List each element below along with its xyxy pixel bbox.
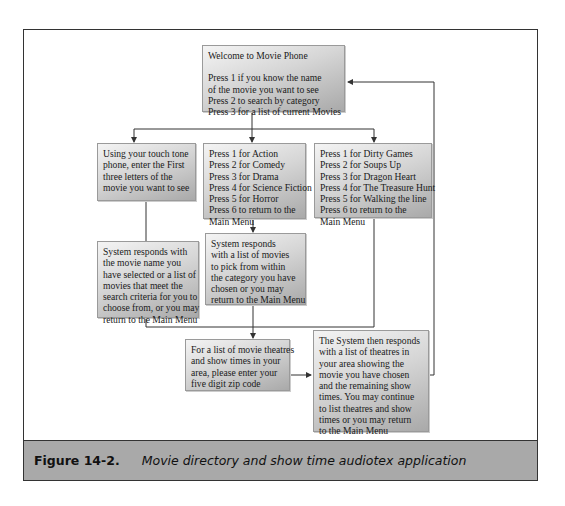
name-search-result-line: have selected or a list of [103,269,193,280]
theatre-result-box: The System then responds with a list of … [313,330,429,432]
category-result-line: with a list of movies [211,249,300,260]
category-menu-line: Press 5 for Horror [209,193,300,204]
category-menu-line: Press 6 to return to the [209,204,300,215]
category-menu-line: Press 1 for Action [209,148,300,159]
zip-prompt-line: area, please enter your [191,367,284,378]
current-movies-line: Press 1 for Dirty Games [320,148,426,159]
category-result-line: to pick from within [211,261,300,272]
category-result-line: return to the Main Menu [211,294,300,305]
theatre-result-line: with a list of theatres in [319,346,423,357]
enter-letters-line: Using your touch tone [103,148,190,159]
figure-description: Movie directory and show time audiotex a… [142,453,467,468]
theatre-result-line: times. You may continue [319,391,423,402]
enter-letters-line: three letters of the [103,171,190,182]
name-search-result-line: search criteria for you to [103,291,193,302]
theatre-result-line: times or you may return [319,414,423,425]
figure-caption: Figure 14-2. Movie directory and show ti… [23,441,538,481]
current-movies-line: Press 5 for Walking the line [320,193,426,204]
zip-prompt-line: For a list of movie theatres [191,344,284,355]
name-search-result-line: System responds with [103,246,193,257]
current-movies-line: Main Menu [320,216,426,227]
theatre-result-line: The System then responds [319,335,423,346]
theatre-result-line: and the remaining show [319,380,423,391]
main-menu-line: Press 2 to search by category [208,95,339,106]
current-movies-menu-box: Press 1 for Dirty Games Press 2 for Soup… [314,143,432,218]
category-menu-line: Press 4 for Science Fiction [209,182,300,193]
zip-prompt-line: and show times in your [191,355,284,366]
main-menu-title: Welcome to Movie Phone [208,50,339,61]
current-movies-line: Press 2 for Soups Up [320,159,426,170]
category-menu-box: Press 1 for Action Press 2 for Comedy Pr… [203,143,306,219]
category-result-line: chosen or you may [211,283,300,294]
main-menu-line: Press 1 if you know the name [208,72,339,83]
theatre-result-line: to the Main Menu [319,425,423,436]
zip-prompt-line: five digit zip code [191,378,284,389]
theatre-result-line: to list theatres and show [319,403,423,414]
category-menu-line: Press 3 for Drama [209,171,300,182]
current-movies-line: Press 4 for The Treasure Hunt [320,182,426,193]
name-search-result-box: System responds with the movie name you … [97,241,199,318]
category-result-box: System responds with a list of movies to… [205,233,306,305]
main-menu-box: Welcome to Movie Phone Press 1 if you kn… [202,45,345,112]
enter-letters-line: movie you want to see [103,182,190,193]
theatre-result-line: movie you have chosen [319,369,423,380]
category-menu-line: Main Menu [209,216,300,227]
enter-letters-box: Using your touch tone phone, enter the F… [97,143,196,201]
name-search-result-line: choose from, or you may [103,302,193,313]
category-result-line: the category you have [211,272,300,283]
enter-letters-line: phone, enter the First [103,159,190,170]
category-result-line: System responds [211,238,300,249]
figure-number: Figure 14-2. [34,453,120,468]
current-movies-line: Press 6 to return to the [320,204,426,215]
name-search-result-line: return to the Main Menu [103,314,193,325]
main-menu-line: Press 3 for a list of current Movies [208,106,339,117]
category-menu-line: Press 2 for Comedy [209,159,300,170]
name-search-result-line: the movie name you [103,257,193,268]
name-search-result-line: movies that meet the [103,280,193,291]
zip-prompt-box: For a list of movie theatres and show ti… [185,339,290,391]
main-menu-line: of the movie you want to see [208,84,339,95]
current-movies-line: Press 3 for Dragon Heart [320,171,426,182]
theatre-result-line: your area showing the [319,358,423,369]
